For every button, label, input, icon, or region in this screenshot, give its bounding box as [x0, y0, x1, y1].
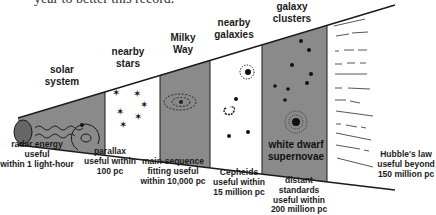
svg-text:✶: ✶	[112, 87, 120, 98]
svg-text:✶: ✶	[133, 88, 141, 99]
method-main-sequence-fitting: main-sequence fitting useful within 10,0…	[140, 157, 206, 186]
method-cepheids: Cepheids useful within 15 million pc	[210, 168, 268, 197]
method-radar: radar energy useful within 1 light-hour	[0, 140, 74, 169]
hubble-flow-lines	[334, 19, 373, 167]
svg-text:✶: ✶	[116, 106, 124, 117]
label-milky-way: Milky Way	[155, 32, 211, 55]
label-galaxy-clusters: galaxy clusters	[262, 1, 322, 24]
method-distant-standards: distant standards useful within 200 mill…	[270, 176, 328, 215]
method-hubbles-law: Hubble's law useful beyond 150 million p…	[376, 150, 436, 179]
label-solar-system: solar system	[37, 64, 87, 87]
band-milky-way	[160, 60, 210, 168]
label-nearby-galaxies: nearby galaxies	[206, 17, 262, 40]
svg-text:✶: ✶	[119, 119, 127, 130]
label-white-dwarf-supernovae: white dwarf supernovae	[266, 139, 326, 162]
svg-text:✶: ✶	[134, 111, 142, 122]
svg-text:✶: ✶	[140, 99, 148, 110]
method-parallax: parallax useful within 100 pc	[82, 147, 138, 176]
label-nearby-stars: nearby stars	[103, 46, 153, 69]
band-nearby-galaxies	[210, 45, 262, 174]
